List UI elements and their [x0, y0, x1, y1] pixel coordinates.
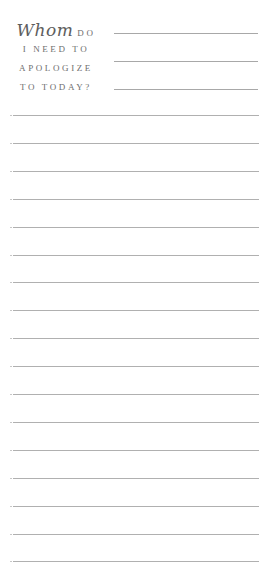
- line-tick-mark: [10, 394, 12, 395]
- line-tick-mark: [10, 366, 12, 367]
- writing-line[interactable]: [13, 561, 259, 562]
- title-line-3: APOLOGIZE: [0, 63, 112, 73]
- writing-line[interactable]: [13, 422, 259, 423]
- writing-line[interactable]: [13, 366, 259, 367]
- header-write-line-2[interactable]: [114, 61, 258, 62]
- line-tick-mark: [10, 199, 12, 200]
- writing-line[interactable]: [13, 450, 259, 451]
- writing-line[interactable]: [13, 282, 259, 283]
- writing-line[interactable]: [13, 310, 259, 311]
- title-line-2: I NEED TO: [0, 44, 112, 54]
- line-tick-mark: [10, 534, 12, 535]
- title-script-word: Whom: [17, 20, 74, 40]
- line-tick-mark: [10, 171, 12, 172]
- writing-line[interactable]: [13, 394, 259, 395]
- line-tick-mark: [10, 282, 12, 283]
- writing-line[interactable]: [13, 171, 259, 172]
- line-tick-mark: [10, 227, 12, 228]
- writing-line[interactable]: [13, 227, 259, 228]
- line-tick-mark: [10, 561, 12, 562]
- writing-line[interactable]: [13, 115, 259, 116]
- title-line-1: Whom DO: [0, 20, 112, 40]
- line-tick-mark: [10, 310, 12, 311]
- title-line-4: TO TODAY?: [0, 82, 112, 92]
- line-tick-mark: [10, 422, 12, 423]
- line-tick-mark: [10, 115, 12, 116]
- writing-line[interactable]: [13, 534, 259, 535]
- header-write-line-1[interactable]: [114, 33, 258, 34]
- line-tick-mark: [10, 506, 12, 507]
- writing-line[interactable]: [13, 478, 259, 479]
- header-write-line-3[interactable]: [114, 89, 258, 90]
- writing-line[interactable]: [13, 338, 259, 339]
- writing-line[interactable]: [13, 506, 259, 507]
- writing-line[interactable]: [13, 143, 259, 144]
- line-tick-mark: [10, 338, 12, 339]
- title-word-do: DO: [77, 28, 95, 38]
- line-tick-mark: [10, 255, 12, 256]
- writing-line[interactable]: [13, 199, 259, 200]
- line-tick-mark: [10, 450, 12, 451]
- line-tick-mark: [10, 143, 12, 144]
- line-tick-mark: [10, 478, 12, 479]
- writing-line[interactable]: [13, 255, 259, 256]
